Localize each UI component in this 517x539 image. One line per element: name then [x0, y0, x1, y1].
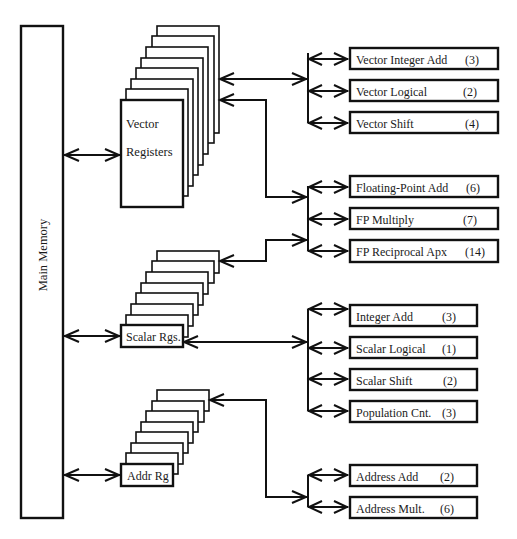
address-registers: Addr Rg [121, 390, 209, 486]
main-memory-label: Main Memory [36, 218, 50, 291]
unit-latency: (3) [442, 406, 456, 420]
vector-registers-label-2: Registers [126, 145, 173, 159]
unit-fp-multiply: FP Multiply (7) [350, 208, 498, 229]
unit-vector-shift: Vector Shift (4) [350, 112, 498, 133]
connector [308, 85, 348, 97]
memory-register-arrows [64, 149, 120, 481]
unit-connectors [308, 53, 348, 513]
vector-registers: Vector Registers [121, 26, 219, 207]
unit-scalar-shift: Scalar Shift (2) [350, 369, 477, 390]
connector [308, 53, 348, 65]
unit-name: FP Multiply [356, 213, 414, 227]
connector [308, 405, 348, 417]
unit-name: Address Add [356, 470, 418, 484]
unit-latency: (6) [466, 181, 480, 195]
fp-unit-group: Floating-Point Add (6) FP Multiply (7) F… [350, 176, 498, 262]
unit-vector-integer-add: Vector Integer Add (3) [350, 48, 498, 69]
connector [308, 303, 348, 315]
unit-name: Vector Logical [356, 85, 428, 99]
vector-unit-group: Vector Integer Add (3) Vector Logical (2… [350, 48, 498, 133]
connector [308, 245, 348, 257]
unit-name: Scalar Shift [356, 374, 413, 388]
unit-address-add: Address Add (2) [350, 465, 477, 486]
unit-name: Scalar Logical [356, 342, 426, 356]
unit-latency: (7) [463, 213, 477, 227]
connector [308, 342, 348, 354]
unit-latency: (4) [465, 117, 479, 131]
unit-name: Floating-Point Add [356, 181, 448, 195]
unit-fp-reciprocal-apx: FP Reciprocal Apx (14) [350, 240, 498, 262]
unit-integer-add: Integer Add (3) [350, 305, 477, 326]
unit-name: FP Reciprocal Apx [356, 245, 447, 259]
unit-latency: (14) [465, 245, 485, 259]
unit-latency: (2) [443, 374, 457, 388]
unit-vector-logical: Vector Logical (2) [350, 80, 498, 101]
scalar-unit-group: Integer Add (3) Scalar Logical (1) Scala… [350, 305, 477, 422]
unit-floating-point-add: Floating-Point Add (6) [350, 176, 498, 197]
unit-name: Population Cnt. [356, 406, 431, 420]
unit-population-cnt: Population Cnt. (3) [350, 401, 477, 422]
unit-address-mult: Address Mult. (6) [350, 497, 477, 518]
scalar-registers-label: Scalar Rgs. [126, 330, 181, 344]
scalar-registers: Scalar Rgs. [121, 251, 219, 347]
unit-scalar-logical: Scalar Logical (1) [350, 337, 477, 358]
connector [308, 181, 348, 193]
unit-latency: (2) [440, 470, 454, 484]
block-diagram: Main Memory Vector Registers Scalar Rgs. [0, 0, 517, 539]
unit-latency: (3) [465, 53, 479, 67]
address-registers-label: Addr Rg [127, 469, 169, 483]
unit-latency: (6) [440, 502, 454, 516]
unit-name: Vector Integer Add [356, 53, 447, 67]
connector [308, 469, 348, 481]
unit-latency: (3) [442, 310, 456, 324]
unit-name: Integer Add [356, 310, 413, 324]
unit-latency: (2) [463, 85, 477, 99]
connector [308, 373, 348, 385]
unit-latency: (1) [442, 342, 456, 356]
vector-registers-label-1: Vector [126, 117, 159, 131]
main-memory: Main Memory [21, 26, 63, 518]
connector [308, 117, 348, 129]
address-unit-group: Address Add (2) Address Mult. (6) [350, 465, 477, 518]
connector [308, 213, 348, 225]
unit-name: Vector Shift [356, 117, 414, 131]
unit-name: Address Mult. [356, 502, 425, 516]
connector [308, 501, 348, 513]
